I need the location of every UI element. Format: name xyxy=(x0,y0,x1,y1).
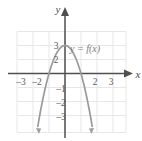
y-axis-label: y xyxy=(55,3,61,15)
x-tick-label-2: 2 xyxy=(93,77,98,87)
y-axis-arrow-icon xyxy=(61,7,69,16)
graph-figure: 3 2 –1 –2 –3 –3 –2 2 3 y x y = f(x) xyxy=(0,0,142,141)
x-tick-label-neg3: –3 xyxy=(15,77,26,87)
x-axis-arrow-icon xyxy=(124,70,133,78)
curve-arrow-right-icon xyxy=(89,128,94,134)
x-axis xyxy=(8,70,133,78)
y-tick-label-neg2: –2 xyxy=(55,98,66,108)
y-tick-label-neg3: –3 xyxy=(55,112,66,122)
x-tick-label-neg2: –2 xyxy=(31,77,42,87)
y-tick-label-neg1: –1 xyxy=(55,84,66,94)
y-tick-label-2: 2 xyxy=(54,55,59,65)
curve-equation-label: y = f(x) xyxy=(69,43,101,55)
coordinate-plane: 3 2 –1 –2 –3 –3 –2 2 3 y x y = f(x) xyxy=(0,0,142,141)
x-axis-label: x xyxy=(135,68,141,80)
y-tick-label-3: 3 xyxy=(54,41,59,51)
x-tick-label-3: 3 xyxy=(109,77,114,87)
curve-arrow-left-icon xyxy=(36,128,41,134)
